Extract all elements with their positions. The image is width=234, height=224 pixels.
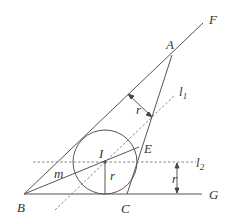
geometry-diagram: F A r l1 E I l2 m r r B C G <box>0 0 234 224</box>
label-l2: l2 <box>196 155 205 172</box>
label-a: A <box>165 37 174 52</box>
label-g: G <box>209 187 219 202</box>
label-m: m <box>54 166 63 181</box>
label-c: C <box>121 201 130 216</box>
label-r-radius: r <box>110 168 116 183</box>
label-f: F <box>208 12 218 27</box>
segment-be <box>24 147 139 194</box>
label-l1: l1 <box>179 84 187 101</box>
label-r-top: r <box>136 102 142 117</box>
label-b: B <box>17 200 25 215</box>
label-e: E <box>143 141 152 156</box>
segment-ac <box>127 55 172 194</box>
label-i: I <box>98 146 104 161</box>
